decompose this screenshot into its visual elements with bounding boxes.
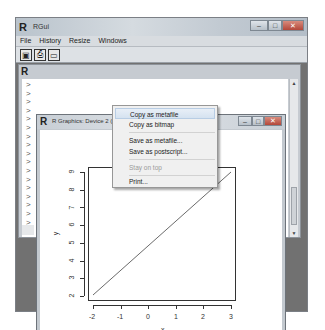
y-tick — [80, 172, 84, 173]
menu-resize[interactable]: Resize — [65, 36, 94, 46]
x-tick — [231, 305, 232, 309]
copy-icon: ▣ — [22, 51, 30, 60]
minimize-button[interactable]: – — [250, 20, 268, 31]
y-axis-title: y — [52, 232, 59, 236]
menu-history[interactable]: History — [35, 36, 65, 46]
x-tick-label: 2 — [201, 313, 205, 320]
console-vertical-scrollbar[interactable]: ▲ ▼ — [289, 79, 298, 237]
close-icon: ✕ — [290, 22, 296, 30]
x-tick — [121, 305, 122, 309]
x-axis-line — [93, 305, 231, 306]
y-tick — [80, 207, 84, 208]
y-tick-label: 7 — [68, 206, 75, 210]
minimize-icon: – — [257, 22, 261, 29]
x-tick — [148, 305, 149, 309]
menu-item-print[interactable]: Print... — [115, 176, 215, 187]
y-tick-label: 3 — [68, 276, 75, 280]
context-menu: Copy as metafile Copy as bitmap Save as … — [112, 105, 218, 188]
x-axis-title: x — [161, 326, 165, 330]
window-button[interactable]: ▭ — [48, 49, 60, 61]
copy-button[interactable]: ▣ — [20, 49, 32, 61]
graphics-maximize-button[interactable]: □ — [252, 116, 264, 126]
menu-item-copy-as-bitmap[interactable]: Copy as bitmap — [115, 119, 215, 130]
y-tick-label: 6 — [68, 223, 75, 227]
rgui-title-bar[interactable]: R RGui – □ ✕ — [16, 18, 307, 36]
x-tick-label: -2 — [89, 313, 95, 320]
x-tick — [93, 305, 94, 309]
menu-bar: File History Resize Windows — [16, 36, 307, 46]
x-tick-label: 3 — [229, 313, 233, 320]
y-tick-label: 4 — [68, 259, 75, 263]
menu-separator — [129, 159, 215, 160]
x-tick — [176, 305, 177, 309]
y-tick-label: 5 — [68, 241, 75, 245]
scroll-up-icon[interactable]: ▲ — [290, 79, 298, 87]
y-tick-label: 9 — [68, 170, 75, 174]
y-tick — [80, 190, 84, 191]
maximize-button[interactable]: □ — [268, 20, 282, 31]
prompt-column: > > > > > > > > > > > > > > > > > — [26, 81, 36, 227]
toolbar: ▣ ⎙ ▭ — [16, 46, 307, 63]
x-tick — [203, 305, 204, 309]
y-tick — [80, 243, 84, 244]
maximize-icon: □ — [256, 118, 260, 125]
menu-item-save-as-metafile[interactable]: Save as metafile... — [115, 135, 215, 146]
close-button[interactable]: ✕ — [282, 20, 304, 31]
minimize-icon: – — [243, 118, 247, 125]
menu-file[interactable]: File — [16, 36, 35, 46]
x-tick-label: -1 — [117, 313, 123, 320]
x-tick-label: 1 — [174, 313, 178, 320]
window-title: RGui — [33, 23, 49, 30]
menu-windows[interactable]: Windows — [94, 36, 130, 46]
close-icon: ✕ — [270, 117, 276, 125]
y-tick — [80, 261, 84, 262]
menu-item-copy-as-metafile[interactable]: Copy as metafile — [115, 108, 215, 119]
graphics-minimize-button[interactable]: – — [238, 116, 252, 126]
scroll-down-icon[interactable]: ▼ — [290, 229, 298, 237]
y-tick — [80, 296, 84, 297]
r-logo-icon: R — [19, 21, 27, 33]
r-logo-icon: R — [21, 66, 28, 77]
graphics-close-button[interactable]: ✕ — [264, 116, 282, 126]
menu-separator — [129, 132, 215, 133]
graphics-window-controls: – □ ✕ — [238, 116, 282, 126]
y-tick — [80, 278, 84, 279]
y-tick-label: 8 — [68, 188, 75, 192]
x-tick-label: 0 — [146, 313, 150, 320]
window-controls: – □ ✕ — [250, 20, 304, 31]
scrollbar-thumb[interactable] — [291, 187, 297, 225]
y-axis-line — [84, 172, 85, 296]
y-tick-label: 2 — [68, 294, 75, 298]
r-logo-icon: R — [40, 116, 47, 127]
print-button[interactable]: ⎙ — [34, 49, 46, 61]
console-horizontal-scrollbar[interactable] — [22, 225, 34, 235]
maximize-icon: □ — [273, 22, 277, 29]
menu-item-stay-on-top[interactable]: Stay on top — [115, 162, 215, 173]
menu-item-save-as-postscript[interactable]: Save as postscript... — [115, 146, 215, 157]
print-icon: ⎙ — [37, 50, 43, 60]
window-icon: ▭ — [50, 51, 58, 60]
y-tick — [80, 225, 84, 226]
